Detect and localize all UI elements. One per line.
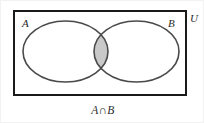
venn-diagram-figure: A B U A∩B (0, 0, 204, 123)
set-b-label: B (168, 18, 175, 29)
set-a-label: A (22, 18, 29, 29)
universal-set-label: U (190, 13, 198, 24)
diagram-caption: A∩B (1, 104, 204, 116)
